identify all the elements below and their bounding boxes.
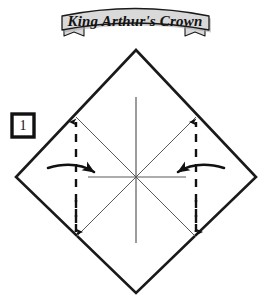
diagram-page: King Arthur's Crown 1 [0,0,269,298]
step-number-label: 1 [20,118,27,133]
origami-instruction-diagram: King Arthur's Crown 1 [0,0,269,298]
title-banner: King Arthur's Crown [62,9,211,37]
banner-title: King Arthur's Crown [67,13,203,29]
step-number-marker: 1 [12,114,34,137]
